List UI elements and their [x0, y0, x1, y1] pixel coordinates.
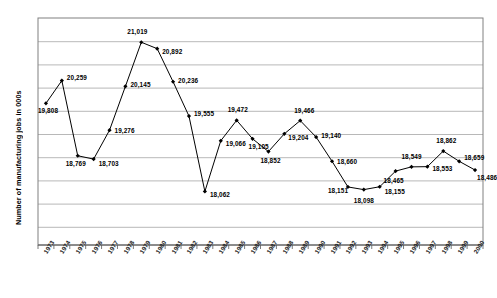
data-value-label: 18,852 [260, 157, 280, 164]
data-value-label: 19,555 [194, 110, 214, 117]
data-value-label: 19,140 [321, 132, 341, 139]
data-value-label: 18,660 [337, 158, 357, 165]
data-value-label: 19,466 [294, 107, 314, 114]
data-value-label: 18,155 [385, 188, 405, 195]
data-value-label: 18,486 [477, 174, 497, 181]
data-value-label: 19,204 [288, 134, 308, 141]
data-value-label: 18,151 [328, 187, 348, 194]
data-value-label: 18,549 [401, 153, 421, 160]
data-value-label: 20,145 [130, 81, 150, 88]
data-value-label: 18,769 [66, 160, 86, 167]
data-value-label: 18,862 [436, 137, 456, 144]
data-value-label: 19,066 [226, 140, 246, 147]
data-value-label: 20,892 [162, 48, 182, 55]
data-value-label: 18,465 [384, 177, 404, 184]
data-value-label: 18,703 [99, 160, 119, 167]
plot-background [38, 18, 483, 245]
data-value-label: 19,105 [249, 143, 269, 150]
data-value-label: 19,472 [228, 106, 248, 113]
data-value-label: 18,659 [464, 154, 484, 161]
data-value-label: 18,098 [354, 197, 374, 204]
data-value-label: 20,259 [67, 74, 87, 81]
data-value-label: 21,019 [127, 28, 147, 35]
data-value-label: 19,276 [115, 127, 135, 134]
data-value-label: 20,236 [178, 77, 198, 84]
data-value-label: 19,808 [38, 107, 58, 114]
data-value-label: 18,553 [432, 165, 452, 172]
data-value-label: 18,062 [210, 191, 230, 198]
